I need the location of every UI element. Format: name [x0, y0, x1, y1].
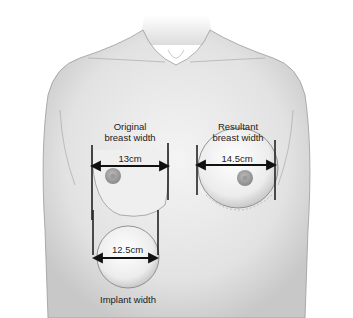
neck: [142, 15, 211, 45]
resultant-label: Resultant breast width: [205, 121, 271, 143]
implant-label: Implant width: [95, 294, 161, 305]
original-measure: 13cm: [110, 153, 150, 164]
original-label: Original breast width: [100, 121, 160, 143]
implant-measure: 12.5cm: [105, 244, 150, 255]
resultant-measure: 14.5cm: [212, 153, 262, 164]
torso-illustration: [0, 0, 353, 318]
